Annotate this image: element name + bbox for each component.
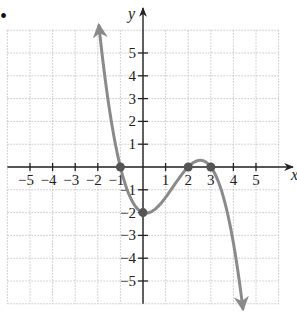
y-tick-label: −4: [120, 250, 136, 266]
x-tick-label: 1: [162, 172, 170, 188]
x-tick-label: 5: [252, 172, 260, 188]
marked-point: [184, 163, 193, 172]
x-tick-label: 2: [184, 172, 192, 188]
axes: [7, 8, 293, 304]
y-tick-label: 5: [129, 45, 137, 61]
y-tick-label: 1: [129, 136, 137, 152]
x-tick-label: 4: [230, 172, 238, 188]
x-tick-label: −4: [41, 172, 57, 188]
marked-point: [139, 208, 148, 217]
x-tick-label: 3: [207, 172, 215, 188]
y-tick-label: 4: [129, 68, 137, 84]
y-tick-label: 2: [129, 113, 137, 129]
function-graph: −5−4−3−2−11234554321−1−2−3−4−5 x y: [0, 0, 297, 328]
marked-point: [116, 163, 125, 172]
x-tick-label: −2: [86, 172, 102, 188]
x-tick-label: −5: [18, 172, 34, 188]
y-axis-label: y: [126, 5, 136, 23]
y-tick-label: 3: [129, 91, 137, 107]
marked-point: [206, 163, 215, 172]
x-tick-label: −3: [63, 172, 79, 188]
y-tick-label: −3: [120, 227, 136, 243]
x-axis-label: x: [290, 166, 297, 183]
y-tick-label: −5: [120, 273, 136, 289]
y-tick-label: −2: [120, 205, 136, 221]
